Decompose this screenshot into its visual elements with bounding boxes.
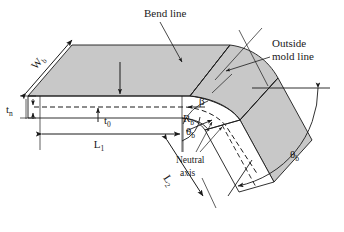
label-outside-mold-line1: Outside bbox=[272, 37, 306, 49]
diagram-canvas: L1 t0 tn Wb θb Rb β L bbox=[0, 0, 344, 232]
label-neutral-axis-line2: axis bbox=[180, 168, 196, 178]
label-tn: tn bbox=[6, 103, 13, 118]
label-L2: L2 bbox=[159, 173, 177, 190]
label-outside-mold-line2: mold line bbox=[272, 50, 314, 62]
bend-geometry-svg: L1 t0 tn Wb θb Rb β L bbox=[0, 0, 344, 232]
label-beta: β bbox=[199, 95, 205, 107]
label-t0: t0 bbox=[104, 114, 111, 129]
label-neutral-axis-line1: Neutral bbox=[176, 155, 205, 165]
label-L1: L1 bbox=[94, 138, 105, 153]
label-bend-line: Bend line bbox=[144, 7, 187, 19]
dimension-extension-lines bbox=[40, 96, 182, 152]
